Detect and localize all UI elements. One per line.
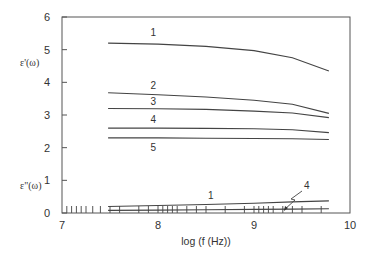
curve-imag-1 — [108, 201, 329, 207]
annotation-label-4: 4 — [304, 180, 310, 191]
dielectric-permittivity-chart: 0123456 78910 123451 ε'(ω) ε"(ω) log (f … — [0, 0, 371, 256]
x-axis-ticks: 78910 — [59, 219, 356, 231]
y-axis-ticks: 0123456 — [44, 11, 67, 219]
curve-real-4 — [108, 128, 329, 133]
y-tick-label: 2 — [44, 142, 50, 154]
y-axis-label-real: ε'(ω) — [20, 57, 39, 69]
curve-label-real-4: 4 — [150, 114, 156, 125]
curve-real-1 — [108, 43, 329, 71]
x-tick-label: 7 — [59, 219, 65, 231]
x-tick-label: 8 — [155, 219, 161, 231]
y-tick-label: 0 — [44, 207, 50, 219]
curve-real-3 — [108, 109, 329, 118]
curve-label-real-1: 1 — [150, 27, 156, 38]
y-tick-label: 3 — [44, 109, 50, 121]
x-axis-label: log (f (Hz)) — [181, 235, 231, 247]
annotation-arrow-4: 4 — [284, 180, 310, 211]
y-tick-label: 5 — [44, 44, 50, 56]
curve-imag-4 — [108, 209, 329, 211]
curve-real-5 — [108, 138, 329, 140]
curve-label-real-3: 3 — [150, 96, 156, 107]
x-tick-label: 10 — [344, 219, 356, 231]
y-axis-label-imag: ε"(ω) — [20, 180, 42, 192]
y-tick-label: 6 — [44, 11, 50, 23]
curves — [108, 43, 329, 210]
curve-label-real-2: 2 — [150, 80, 156, 91]
curve-labels: 123451 — [150, 27, 214, 201]
curve-label-imag-1: 1 — [208, 190, 214, 201]
y-tick-label: 1 — [44, 174, 50, 186]
curve-label-real-5: 5 — [150, 142, 156, 153]
x-tick-label: 9 — [251, 219, 257, 231]
y-tick-label: 4 — [44, 76, 50, 88]
